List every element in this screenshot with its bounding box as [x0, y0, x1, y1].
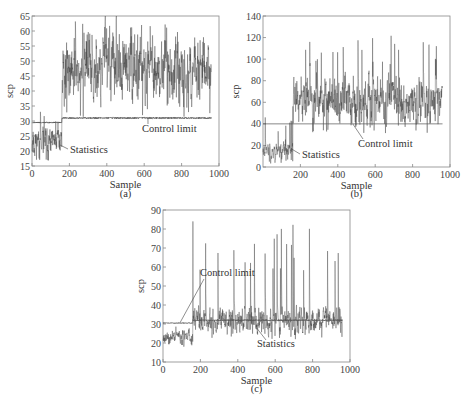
x-tick-label: 200: [293, 169, 308, 180]
annotation-statistics: Statistics: [70, 144, 108, 155]
y-tick-label: 45: [20, 71, 30, 82]
y-axis-label: scp: [4, 84, 15, 98]
y-tick-label: 50: [151, 281, 161, 292]
y-tick-label: 90: [151, 205, 161, 216]
x-tick-label: 400: [99, 168, 114, 179]
series-statistics: [32, 16, 211, 161]
chart-c: 02004006008001000102030405060708090Sampl…: [135, 205, 360, 396]
y-tick-label: 35: [20, 101, 30, 112]
annotation-leader: [60, 145, 68, 149]
x-tick-label: 800: [405, 169, 420, 180]
x-tick-label: 400: [230, 364, 245, 375]
y-tick-label: 60: [20, 26, 30, 37]
x-tick-label: 0: [30, 168, 35, 179]
x-tick-label: 600: [137, 168, 152, 179]
y-tick-label: 10: [151, 357, 161, 368]
y-tick-label: 20: [20, 146, 30, 157]
y-tick-label: 40: [20, 86, 30, 97]
chart-caption: (c): [251, 383, 263, 395]
y-tick-label: 100: [246, 54, 261, 65]
x-tick-label: 400: [330, 169, 345, 180]
y-axis-label: scp: [135, 279, 146, 293]
y-tick-label: 20: [151, 338, 161, 349]
figure-canvas: 020040060080010001520253035404550556065S…: [0, 0, 465, 400]
y-tick-label: 80: [251, 75, 261, 86]
y-tick-label: 60: [251, 97, 261, 108]
x-tick-label: 200: [62, 168, 77, 179]
series-statistics: [263, 36, 442, 164]
y-tick-label: 0: [256, 162, 261, 173]
annotation-statistics: Statistics: [257, 338, 295, 349]
x-tick-label: 600: [268, 364, 283, 375]
chart-caption: (b): [350, 188, 363, 200]
annotation-leader: [353, 124, 363, 139]
y-axis-label: scp: [230, 85, 241, 99]
y-tick-label: 15: [20, 161, 30, 172]
x-tick-label: 0: [161, 364, 166, 375]
y-tick-label: 140: [246, 11, 261, 22]
y-tick-label: 25: [20, 131, 30, 142]
y-tick-label: 30: [151, 319, 161, 330]
x-tick-label: 1000: [340, 364, 360, 375]
annotation-control-limit: Control limit: [358, 138, 413, 149]
series-statistics: [163, 221, 342, 346]
y-tick-label: 40: [151, 300, 161, 311]
x-tick-label: 800: [305, 364, 320, 375]
chart-caption: (a): [120, 188, 132, 200]
y-tick-label: 50: [20, 56, 30, 67]
y-tick-label: 80: [151, 224, 161, 235]
annotation-control-limit: Control limit: [142, 123, 197, 134]
x-tick-label: 600: [368, 169, 383, 180]
y-tick-label: 65: [20, 11, 30, 22]
x-tick-label: 1000: [209, 168, 229, 179]
y-tick-label: 120: [246, 32, 261, 43]
y-tick-label: 30: [20, 116, 30, 127]
y-tick-label: 20: [251, 140, 261, 151]
x-tick-label: 1000: [440, 169, 460, 180]
chart-a: 020040060080010001520253035404550556065S…: [4, 11, 229, 201]
x-tick-label: 800: [174, 168, 189, 179]
chart-b: 2004006008001000020406080100120140Sample…: [230, 11, 460, 201]
annotation-control-limit: Control limit: [200, 267, 255, 278]
y-tick-label: 55: [20, 41, 30, 52]
x-tick-label: 200: [193, 364, 208, 375]
annotation-statistics: Statistics: [302, 149, 340, 160]
y-tick-label: 40: [251, 118, 261, 129]
y-tick-label: 60: [151, 262, 161, 273]
annotation-leader: [291, 149, 300, 154]
y-tick-label: 70: [151, 243, 161, 254]
